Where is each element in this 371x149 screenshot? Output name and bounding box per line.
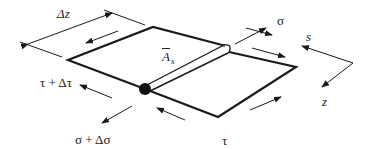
tau-arrow: [250, 97, 281, 110]
shear-arrow-right: [252, 48, 285, 57]
left-panel: [68, 27, 226, 89]
tau-plus-delta-tau-label: τ + Δτ: [40, 76, 72, 89]
tau-plus-arrow: [80, 85, 112, 98]
sigma-plus-arrow: [102, 106, 132, 123]
z-axis-arrow: [322, 63, 353, 87]
shear-arrow-top-left: [86, 31, 118, 43]
tau-label: τ: [222, 134, 227, 147]
sigma-arrow: [235, 28, 266, 44]
shear-arrow-top-right: [246, 28, 272, 35]
sigma-label: σ: [277, 14, 284, 27]
stringer-rod: [139, 45, 230, 95]
s-axis-label: s: [306, 30, 311, 43]
delta-z-dimension: [20, 10, 145, 57]
stringer-area-label: As: [162, 50, 174, 66]
stringer-end-dot: [139, 83, 151, 95]
s-axis-arrow: [302, 46, 353, 63]
sigma-plus-delta-sigma-label: σ + Δσ: [75, 133, 111, 146]
stringer-stress-diagram: Δz σ s z As τ + Δτ σ + Δσ τ: [0, 0, 371, 149]
shear-arrow-bottom-left: [157, 108, 185, 120]
coordinate-axes: [302, 46, 353, 87]
z-axis-label: z: [322, 95, 327, 108]
delta-z-label: Δz: [57, 7, 70, 20]
